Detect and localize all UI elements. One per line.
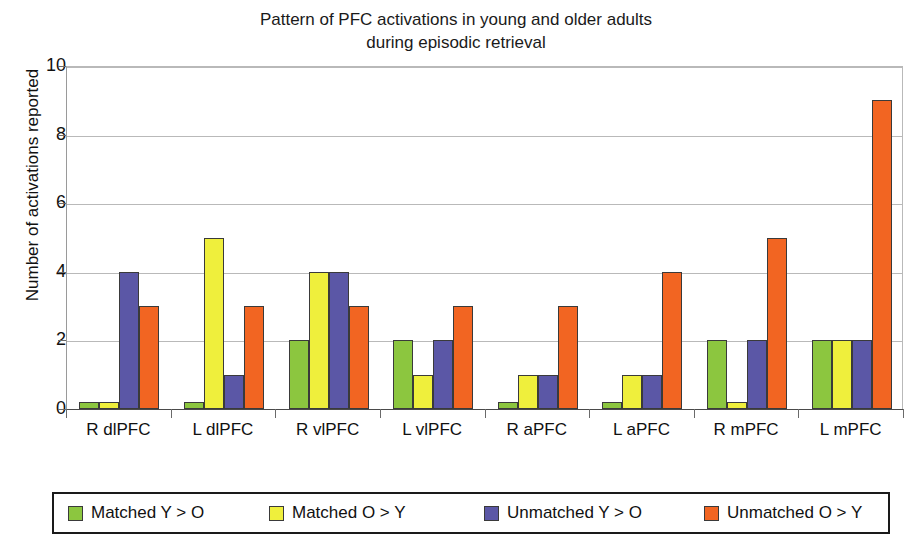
bar bbox=[329, 272, 349, 409]
bar bbox=[453, 306, 473, 409]
x-tick-label: L dlPFC bbox=[171, 420, 276, 440]
bar bbox=[139, 306, 159, 409]
y-tick-mark bbox=[58, 203, 66, 204]
bar bbox=[99, 402, 119, 409]
bar bbox=[79, 402, 99, 409]
x-tick-mark bbox=[694, 409, 695, 418]
x-tick-mark bbox=[903, 409, 904, 418]
gridline bbox=[67, 136, 902, 137]
bar bbox=[872, 100, 892, 409]
bar bbox=[204, 238, 224, 410]
bar bbox=[812, 340, 832, 409]
bar bbox=[852, 340, 872, 409]
x-tick-label: L vlPFC bbox=[380, 420, 485, 440]
legend-swatch-icon bbox=[704, 506, 719, 521]
legend-item[interactable]: Matched Y > O bbox=[68, 494, 204, 532]
bar bbox=[289, 340, 309, 409]
bar bbox=[642, 375, 662, 409]
legend-swatch-icon bbox=[269, 506, 284, 521]
x-tick-mark bbox=[66, 409, 67, 418]
legend-label: Matched O > Y bbox=[292, 503, 406, 523]
x-tick-mark bbox=[380, 409, 381, 418]
chart-legend: Matched Y > OMatched O > YUnmatched Y > … bbox=[52, 492, 890, 534]
legend-label: Unmatched Y > O bbox=[507, 503, 642, 523]
y-tick-mark bbox=[58, 66, 66, 67]
x-tick-label: L mPFC bbox=[798, 420, 903, 440]
x-tick-mark bbox=[798, 409, 799, 418]
bar bbox=[349, 306, 369, 409]
bar bbox=[309, 272, 329, 409]
bar bbox=[832, 340, 852, 409]
bar bbox=[433, 340, 453, 409]
bar bbox=[602, 402, 622, 409]
bar bbox=[224, 375, 244, 409]
legend-swatch-icon bbox=[484, 506, 499, 521]
legend-swatch-icon bbox=[68, 506, 83, 521]
x-tick-label: R aPFC bbox=[485, 420, 590, 440]
x-tick-mark bbox=[275, 409, 276, 418]
chart-page: Pattern of PFC activations in young and … bbox=[0, 0, 912, 534]
bar bbox=[393, 340, 413, 409]
chart-title: Pattern of PFC activations in young and … bbox=[0, 8, 912, 54]
x-tick-label: L aPFC bbox=[589, 420, 694, 440]
x-tick-mark bbox=[485, 409, 486, 418]
gridline bbox=[67, 67, 902, 68]
bar bbox=[622, 375, 642, 409]
y-tick-mark bbox=[58, 340, 66, 341]
legend-item[interactable]: Unmatched O > Y bbox=[704, 494, 862, 532]
legend-item[interactable]: Matched O > Y bbox=[269, 494, 406, 532]
bar bbox=[558, 306, 578, 409]
y-tick-mark bbox=[58, 272, 66, 273]
bar bbox=[767, 238, 787, 410]
x-tick-label: R vlPFC bbox=[275, 420, 380, 440]
y-axis: 0246810 bbox=[0, 0, 66, 534]
x-tick-label: R mPFC bbox=[694, 420, 799, 440]
legend-label: Unmatched O > Y bbox=[727, 503, 862, 523]
bar bbox=[727, 402, 747, 409]
bar bbox=[184, 402, 204, 409]
bar bbox=[747, 340, 767, 409]
y-tick-mark bbox=[58, 409, 66, 410]
y-tick-mark bbox=[58, 135, 66, 136]
bar bbox=[244, 306, 264, 409]
bar bbox=[518, 375, 538, 409]
bar bbox=[119, 272, 139, 409]
bar bbox=[413, 375, 433, 409]
bar bbox=[538, 375, 558, 409]
legend-label: Matched Y > O bbox=[91, 503, 204, 523]
x-tick-mark bbox=[171, 409, 172, 418]
bar bbox=[662, 272, 682, 409]
bar bbox=[707, 340, 727, 409]
gridline bbox=[67, 204, 902, 205]
x-tick-mark bbox=[589, 409, 590, 418]
bar bbox=[498, 402, 518, 409]
legend-item[interactable]: Unmatched Y > O bbox=[484, 494, 642, 532]
plot-area bbox=[66, 66, 903, 409]
x-tick-label: R dlPFC bbox=[66, 420, 171, 440]
